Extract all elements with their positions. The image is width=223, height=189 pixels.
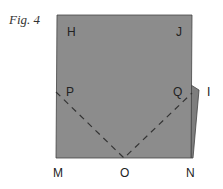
point-o: O — [120, 166, 129, 180]
origami-diagram: H J P Q I M O N — [0, 0, 223, 189]
paper-square — [56, 15, 192, 158]
point-m: M — [53, 166, 63, 180]
point-p: P — [66, 85, 74, 99]
point-j: J — [176, 25, 182, 39]
point-q: Q — [173, 85, 182, 99]
point-n: N — [186, 166, 195, 180]
back-flap — [191, 85, 199, 158]
point-h: H — [67, 25, 76, 39]
point-i: I — [207, 85, 210, 99]
